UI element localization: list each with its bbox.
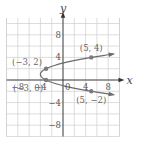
parabola-chart: −8−44884−4−8 (−3, 2)(5, 4)(−3, 0)(5, −2)…: [0, 0, 142, 156]
point-label: (5, 4): [80, 43, 103, 53]
data-point: [44, 67, 48, 71]
point-label: (−3, 2): [12, 57, 42, 67]
y-tick-label: −8: [48, 120, 61, 130]
x-tick-label: 8: [105, 82, 110, 92]
data-point: [44, 78, 48, 82]
data-point: [89, 89, 93, 93]
axes: [7, 12, 125, 137]
y-tick-label: 4: [56, 52, 61, 62]
x-axis-arrow-icon: [119, 78, 125, 82]
curve-arrow-lower-icon: [108, 92, 115, 96]
curve-arrow-upper-icon: [108, 53, 115, 57]
y-tick-label: −4: [48, 98, 61, 108]
data-point: [89, 55, 93, 59]
origin-label: 0: [65, 82, 70, 92]
y-tick-label: 8: [56, 30, 61, 40]
y-axis-title: y: [59, 2, 67, 15]
x-axis-title: x: [127, 74, 134, 87]
point-label: (5, −2): [76, 95, 106, 105]
point-label: (−3, 0): [13, 83, 43, 93]
